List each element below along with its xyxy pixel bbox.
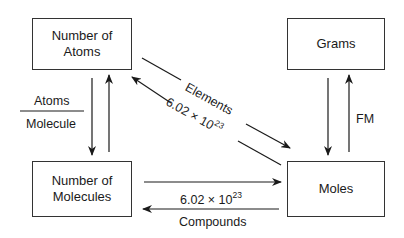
label-avogadro-horizontal: 6.02 × 1023 (180, 193, 242, 207)
avogadro-horizontal-base: 6.02 × 10 (180, 193, 232, 207)
node-grams-label: Grams (317, 36, 356, 52)
arrow-atoms-to-moles (246, 124, 290, 148)
diag-atoms-to-moles-tail (142, 58, 181, 80)
node-moles: Moles (287, 161, 385, 217)
node-number-of-molecules: Number of Molecules (32, 161, 132, 217)
node-molecules-label-1: Number of (52, 173, 113, 189)
node-molecules-label-2: Molecules (52, 189, 113, 205)
label-compounds: Compounds (179, 215, 246, 229)
arrow-moles-to-atoms (132, 77, 171, 103)
diag-moles-to-atoms-tail (238, 141, 281, 165)
node-grams: Grams (287, 18, 385, 70)
node-moles-label: Moles (319, 181, 354, 197)
label-fm: FM (356, 112, 374, 126)
node-atoms-label-2: Atoms (52, 44, 113, 60)
node-number-of-atoms: Number of Atoms (32, 18, 132, 70)
node-atoms-label-1: Number of (52, 28, 113, 44)
fraction-numerator: Atoms (34, 94, 69, 108)
avogadro-horizontal-exp: 23 (232, 190, 241, 200)
fraction-denominator: Molecule (26, 117, 76, 131)
